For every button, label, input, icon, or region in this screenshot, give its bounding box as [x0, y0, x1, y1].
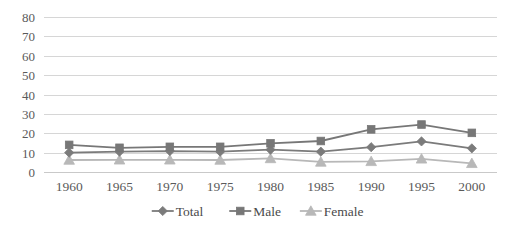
- y-tick-label-0: 0: [29, 165, 36, 180]
- marker-square: [236, 207, 244, 215]
- marker-square: [216, 143, 224, 151]
- legend-item-female[interactable]: Female: [300, 204, 364, 219]
- x-tick-label-2000: 2000: [458, 179, 485, 194]
- y-tick-label-40: 40: [22, 88, 35, 103]
- x-tick-label-1980: 1980: [257, 179, 284, 194]
- x-axis-labels: 196019651970197519801985199019952000: [56, 179, 486, 194]
- chart-canvas: 0102030405060708019601965197019751980198…: [0, 0, 509, 233]
- x-tick-label-1985: 1985: [307, 179, 334, 194]
- legend-label-female: Female: [324, 204, 364, 219]
- marker-diamond: [65, 148, 74, 157]
- marker-square: [116, 144, 124, 152]
- marker-square: [367, 126, 375, 134]
- y-tick-label-70: 70: [22, 29, 35, 44]
- legend-label-male: Male: [253, 204, 281, 219]
- line-chart: 0102030405060708019601965197019751980198…: [0, 0, 509, 233]
- legend-label-total: Total: [176, 204, 204, 219]
- marker-square: [166, 143, 174, 151]
- marker-square: [468, 129, 476, 137]
- series-male: [65, 121, 475, 152]
- y-tick-label-30: 30: [22, 107, 35, 122]
- y-tick-label-50: 50: [22, 68, 35, 83]
- marker-square: [65, 141, 73, 149]
- y-tick-label-20: 20: [22, 126, 35, 141]
- legend: TotalMaleFemale: [152, 204, 364, 219]
- marker-diamond: [158, 206, 167, 215]
- y-gridlines: 01020304050607080: [22, 10, 497, 180]
- legend-item-male[interactable]: Male: [229, 204, 281, 219]
- x-tick-label-1965: 1965: [106, 179, 133, 194]
- y-tick-label-10: 10: [22, 146, 35, 161]
- marker-diamond: [316, 147, 325, 156]
- marker-square: [317, 137, 325, 145]
- marker-square: [267, 140, 275, 148]
- legend-item-total[interactable]: Total: [152, 204, 204, 219]
- series-female: [64, 153, 477, 167]
- y-tick-label-80: 80: [22, 10, 35, 25]
- y-tick-label-60: 60: [22, 49, 35, 64]
- x-tick-label-1970: 1970: [156, 179, 183, 194]
- x-tick-label-1960: 1960: [56, 179, 83, 194]
- x-tick-label-1995: 1995: [408, 179, 435, 194]
- marker-diamond: [417, 137, 426, 146]
- marker-square: [418, 121, 426, 129]
- marker-diamond: [467, 144, 476, 153]
- x-tick-label-1990: 1990: [358, 179, 385, 194]
- x-tick-label-1975: 1975: [207, 179, 234, 194]
- marker-diamond: [367, 143, 376, 152]
